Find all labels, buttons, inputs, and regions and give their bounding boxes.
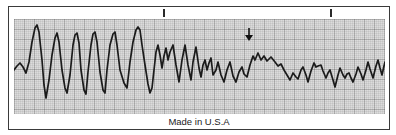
ecg-grid-paper [14, 19, 385, 114]
interval-marker-tick [163, 9, 165, 17]
ecg-trace-line [14, 25, 385, 98]
ecg-waveform [14, 19, 385, 114]
down-arrow-icon [245, 28, 253, 41]
ecg-frame: Made in U.S.A [8, 6, 390, 130]
caption-made-in-usa: Made in U.S.A [9, 114, 389, 130]
ecg-strip-figure: Made in U.S.A [0, 0, 396, 135]
interval-marker-tick [330, 9, 332, 17]
